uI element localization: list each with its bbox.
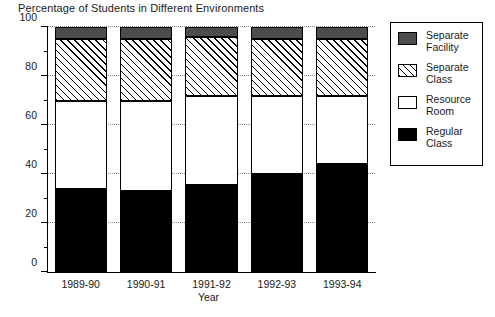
legend-item-facility[interactable]: SeparateFacility (391, 30, 482, 53)
legend: SeparateFacilitySeparateClassResourceRoo… (390, 22, 483, 166)
x-axis-title-text: Year (198, 291, 219, 303)
legend-label-separate: SeparateClass (426, 62, 469, 85)
x-axis-label: 1991-92 (179, 278, 244, 290)
bar-stack[interactable] (55, 27, 107, 272)
legend-label-resource: ResourceRoom (426, 94, 471, 117)
legend-swatch-facility (398, 32, 417, 45)
bar-segment-separate[interactable] (120, 39, 172, 100)
bar-segment-facility[interactable] (185, 27, 237, 37)
bar-segment-regular[interactable] (120, 191, 172, 272)
bar-stack[interactable] (316, 27, 368, 272)
y-axis-tick (41, 75, 48, 76)
chart-title: Percentage of Students in Different Envi… (18, 2, 264, 14)
bar-stack[interactable] (185, 27, 237, 272)
plot-area: 020406080100 (48, 27, 375, 272)
legend-swatch-resource (398, 96, 417, 109)
legend-label-line1: Resource (426, 93, 471, 105)
y-axis-label: 80 (25, 60, 37, 71)
y-axis-tick (41, 173, 48, 174)
bar-segment-resource[interactable] (185, 96, 237, 185)
bar-segment-resource[interactable] (316, 96, 368, 165)
legend-swatch-regular (398, 128, 417, 141)
legend-label-line2: Room (426, 106, 471, 118)
bar-segment-resource[interactable] (120, 101, 172, 192)
y-axis-tick (41, 26, 48, 27)
bar-segment-regular[interactable] (55, 189, 107, 272)
legend-swatch-separate (398, 64, 417, 77)
y-axis-tick (41, 271, 48, 272)
y-axis-label: 0 (31, 256, 37, 267)
y-axis-label: 100 (19, 11, 37, 22)
legend-label-line1: Regular (426, 125, 463, 137)
x-axis-label: 1989-90 (48, 278, 113, 290)
bar-segment-regular[interactable] (251, 174, 303, 272)
y-axis-label: 20 (25, 207, 37, 218)
bar-segment-separate[interactable] (185, 37, 237, 96)
legend-label-line2: Facility (426, 42, 469, 54)
legend-label-line2: Class (426, 138, 463, 150)
bar-stack[interactable] (120, 27, 172, 272)
x-axis-label: 1993-94 (310, 278, 375, 290)
y-axis-label: 40 (25, 158, 37, 169)
y-axis-label: 60 (25, 109, 37, 120)
bar-segment-regular[interactable] (185, 185, 237, 272)
legend-item-resource[interactable]: ResourceRoom (391, 94, 482, 117)
legend-item-regular[interactable]: RegularClass (391, 126, 482, 149)
bar-segment-resource[interactable] (251, 96, 303, 174)
bar-segment-facility[interactable] (251, 27, 303, 39)
chart-container: Percentage of Students in Different Envi… (0, 0, 495, 317)
bar-segment-facility[interactable] (120, 27, 172, 39)
bar-series-group (48, 27, 375, 272)
bar-segment-resource[interactable] (55, 101, 107, 189)
legend-label-line2: Class (426, 74, 469, 86)
bar-segment-separate[interactable] (55, 39, 107, 100)
x-axis-title: Year (0, 291, 495, 303)
legend-item-separate[interactable]: SeparateClass (391, 62, 482, 85)
bar-segment-separate[interactable] (316, 39, 368, 95)
x-axis-line (47, 272, 376, 273)
legend-label-line1: Separate (426, 29, 469, 41)
y-axis-tick (41, 222, 48, 223)
legend-label-line1: Separate (426, 61, 469, 73)
x-axis-label: 1990-91 (113, 278, 178, 290)
bar-segment-facility[interactable] (55, 27, 107, 39)
bar-segment-facility[interactable] (316, 27, 368, 39)
legend-label-facility: SeparateFacility (426, 30, 469, 53)
bar-segment-separate[interactable] (251, 39, 303, 95)
bar-stack[interactable] (251, 27, 303, 272)
legend-label-regular: RegularClass (426, 126, 463, 149)
x-axis-label: 1992-93 (244, 278, 309, 290)
bar-segment-regular[interactable] (316, 164, 368, 272)
y-axis-tick (41, 124, 48, 125)
